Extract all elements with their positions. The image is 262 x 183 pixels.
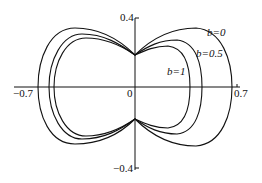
label-b05: b=0.5: [196, 47, 223, 59]
label-b0: b=0: [207, 26, 226, 38]
origin-label: 0: [127, 87, 133, 99]
label-b1: b=1: [167, 65, 185, 77]
x-min-label: −0.7: [13, 87, 33, 99]
y-min-label: −0.4: [113, 162, 133, 174]
polar-curves-chart: 0.4 −0.4 −0.7 0.7 0 b=0 b=0.5 b=1: [0, 0, 262, 183]
y-max-label: 0.4: [120, 11, 134, 23]
x-max-label: 0.7: [234, 87, 248, 99]
